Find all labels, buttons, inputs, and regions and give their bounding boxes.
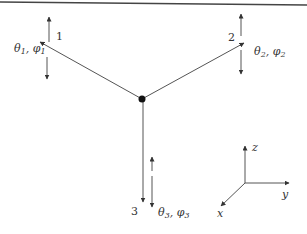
member-3-dof-label: θ3, φ3: [158, 206, 190, 220]
member-2-label: 2: [228, 31, 235, 44]
y-axis-label: y: [281, 188, 289, 201]
center-node: [139, 96, 146, 103]
top-rule: [0, 2, 307, 5]
z-axis-label: z: [251, 141, 258, 154]
coordinate-axes: z y x: [217, 141, 289, 220]
member-3: 3 θ3, φ3: [131, 99, 190, 220]
member-3-label: 3: [131, 205, 138, 218]
member-1-label: 1: [56, 30, 63, 43]
member-2-dof-label: θ2, φ2: [254, 45, 286, 59]
x-axis-arrow: [221, 183, 245, 206]
member-2: 2 θ2, φ2: [142, 14, 286, 99]
joint-diagram: 1 θ1, φ1 2 θ2, φ2 3 θ3, φ3 z y x: [0, 0, 307, 234]
member-1: 1 θ1, φ1: [14, 17, 142, 99]
member-1-dof-label: θ1, φ1: [14, 42, 46, 56]
x-axis-label: x: [217, 207, 224, 220]
